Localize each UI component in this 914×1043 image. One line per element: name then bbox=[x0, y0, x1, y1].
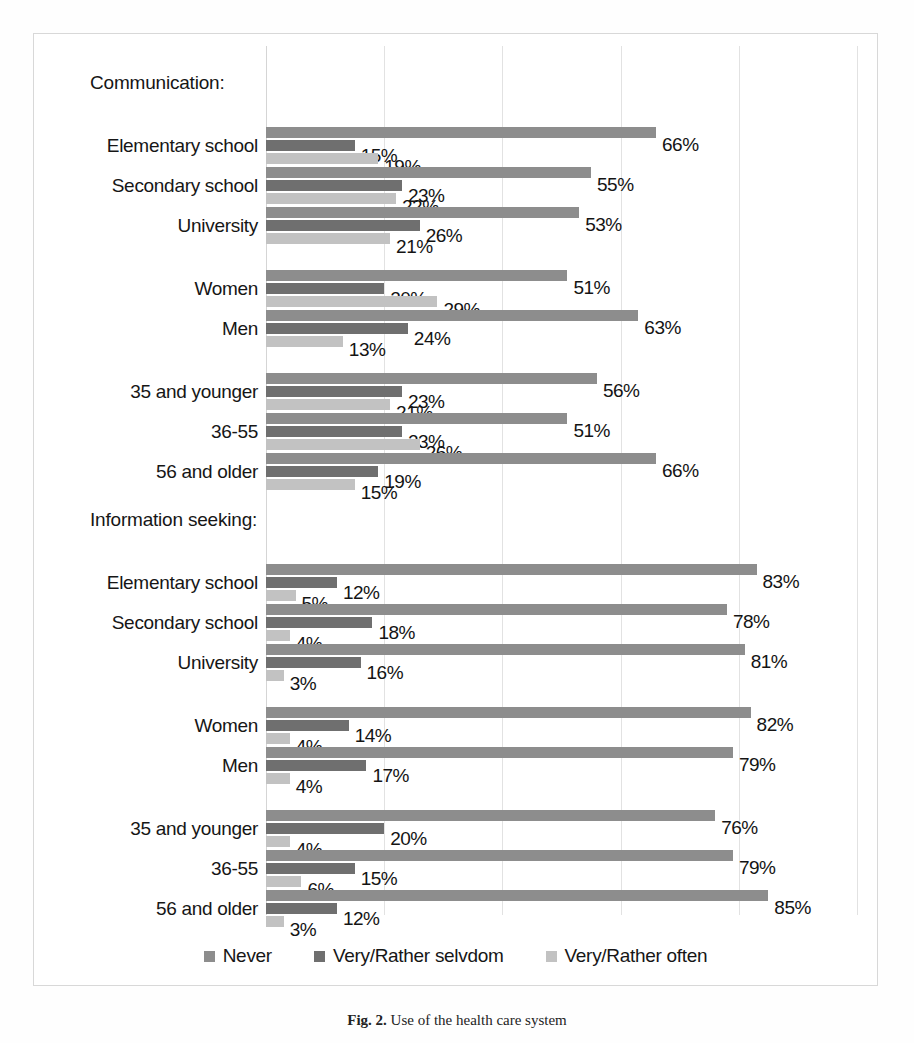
bar-group: 66%19%15% bbox=[266, 453, 865, 490]
bar-group: 82%14%4% bbox=[266, 707, 865, 744]
bar-seldom bbox=[266, 863, 355, 874]
legend-label: Very/Rather selvdom bbox=[333, 945, 504, 967]
bar-often bbox=[266, 336, 343, 347]
bar-often bbox=[266, 733, 290, 744]
bar-never bbox=[266, 207, 579, 218]
bar-often bbox=[266, 876, 301, 887]
bar-value-label: 4% bbox=[296, 777, 322, 796]
category-label: 36-55 bbox=[211, 858, 258, 880]
bar-seldom bbox=[266, 323, 408, 334]
bar-value-label: 12% bbox=[343, 583, 380, 602]
bar-group: 51%20%29% bbox=[266, 270, 865, 307]
bar-often bbox=[266, 296, 437, 307]
bar-never bbox=[266, 413, 567, 424]
legend-label: Very/Rather often bbox=[565, 945, 708, 967]
section-title-communication: Communication: bbox=[90, 72, 224, 94]
bar-never bbox=[266, 167, 591, 178]
bar-value-label: 20% bbox=[390, 829, 427, 848]
category-label: Elementary school bbox=[107, 135, 258, 157]
chart-frame: Communication:Elementary school66%15%19%… bbox=[33, 33, 878, 986]
bar-value-label: 85% bbox=[774, 898, 811, 917]
legend-item-2[interactable]: Very/Rather often bbox=[546, 945, 708, 967]
bar-seldom bbox=[266, 466, 378, 477]
chart-legend: NeverVery/Rather selvdomVery/Rather ofte… bbox=[34, 945, 877, 967]
bar-never bbox=[266, 373, 597, 384]
bar-group: 81%16%3% bbox=[266, 644, 865, 681]
bar-often bbox=[266, 399, 390, 410]
bar-group: 66%15%19% bbox=[266, 127, 865, 164]
bar-value-label: 21% bbox=[396, 237, 433, 256]
legend-swatch-icon bbox=[204, 951, 215, 962]
bar-often bbox=[266, 916, 284, 927]
bar-seldom bbox=[266, 617, 372, 628]
category-label: 56 and older bbox=[156, 461, 258, 483]
bar-value-label: 82% bbox=[757, 715, 794, 734]
bar-often bbox=[266, 479, 355, 490]
legend-item-1[interactable]: Very/Rather selvdom bbox=[314, 945, 504, 967]
category-label: University bbox=[178, 215, 258, 237]
bar-value-label: 51% bbox=[573, 421, 610, 440]
bar-seldom bbox=[266, 426, 402, 437]
bar-seldom bbox=[266, 180, 402, 191]
category-label: Elementary school bbox=[107, 572, 258, 594]
legend-item-0[interactable]: Never bbox=[204, 945, 272, 967]
bar-value-label: 17% bbox=[372, 766, 409, 785]
bar-value-label: 76% bbox=[721, 818, 758, 837]
bar-value-label: 55% bbox=[597, 175, 634, 194]
bar-group: 76%20%4% bbox=[266, 810, 865, 847]
bar-seldom bbox=[266, 386, 402, 397]
bar-value-label: 15% bbox=[361, 483, 398, 502]
bar-never bbox=[266, 453, 656, 464]
bar-never bbox=[266, 747, 733, 758]
category-label: 35 and younger bbox=[130, 381, 258, 403]
category-label: 35 and younger bbox=[130, 818, 258, 840]
bar-group: 83%12%5% bbox=[266, 564, 865, 601]
bar-value-label: 13% bbox=[349, 340, 386, 359]
bar-value-label: 3% bbox=[290, 920, 316, 939]
bar-seldom bbox=[266, 720, 349, 731]
bar-value-label: 81% bbox=[751, 652, 788, 671]
bar-never bbox=[266, 127, 656, 138]
bar-value-label: 78% bbox=[733, 612, 770, 631]
bar-never bbox=[266, 890, 768, 901]
bar-often bbox=[266, 153, 378, 164]
figure-page: Communication:Elementary school66%15%19%… bbox=[0, 0, 914, 1043]
bar-often bbox=[266, 233, 390, 244]
bar-often bbox=[266, 773, 290, 784]
category-label: Men bbox=[222, 318, 258, 340]
bar-value-label: 66% bbox=[662, 135, 699, 154]
bar-never bbox=[266, 810, 715, 821]
bar-group: 85%12%3% bbox=[266, 890, 865, 927]
legend-swatch-icon bbox=[546, 951, 557, 962]
category-label: University bbox=[178, 652, 258, 674]
caption-text: Use of the health care system bbox=[387, 1012, 567, 1028]
bar-group: 79%17%4% bbox=[266, 747, 865, 784]
legend-label: Never bbox=[223, 945, 272, 967]
bar-seldom bbox=[266, 657, 361, 668]
bar-group: 51%23%26% bbox=[266, 413, 865, 450]
bar-value-label: 66% bbox=[662, 461, 699, 480]
bar-seldom bbox=[266, 283, 384, 294]
bar-seldom bbox=[266, 220, 420, 231]
bar-group: 56%23%21% bbox=[266, 373, 865, 410]
legend-swatch-icon bbox=[314, 951, 325, 962]
category-label: Women bbox=[194, 715, 258, 737]
bar-often bbox=[266, 670, 284, 681]
bar-never bbox=[266, 644, 745, 655]
category-label: 36-55 bbox=[211, 421, 258, 443]
bar-seldom bbox=[266, 577, 337, 588]
bar-value-label: 63% bbox=[644, 318, 681, 337]
bar-value-label: 56% bbox=[603, 381, 640, 400]
bar-value-label: 18% bbox=[378, 623, 415, 642]
bar-never bbox=[266, 564, 757, 575]
bar-seldom bbox=[266, 140, 355, 151]
bar-never bbox=[266, 707, 751, 718]
bar-value-label: 79% bbox=[739, 755, 776, 774]
section-title-information-seeking: Information seeking: bbox=[90, 509, 257, 531]
bar-often bbox=[266, 439, 420, 450]
bar-value-label: 15% bbox=[361, 869, 398, 888]
bar-never bbox=[266, 270, 567, 281]
bar-value-label: 3% bbox=[290, 674, 316, 693]
category-label: Women bbox=[194, 278, 258, 300]
category-label: Secondary school bbox=[112, 175, 258, 197]
